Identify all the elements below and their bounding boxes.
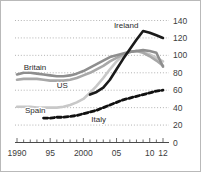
x-tick-label: 10 [145, 148, 155, 158]
chart-card: 020406080100120140 1990952000051012 Irel… [0, 0, 201, 172]
x-axis-tick-labels: 1990952000051012 [8, 148, 168, 158]
y-tick-label: 40 [173, 103, 183, 113]
series-label-britain: Britain [24, 63, 47, 72]
line-chart: 020406080100120140 1990952000051012 Irel… [1, 1, 201, 172]
series-label-ireland: Ireland [114, 21, 138, 30]
x-tick-label: 05 [112, 148, 122, 158]
x-tick-label: 1990 [8, 148, 27, 158]
y-tick-label: 60 [173, 85, 183, 95]
series-label-spain: Spain [25, 106, 45, 115]
x-tick-label: 95 [45, 148, 55, 158]
series-label-italy: Italy [91, 115, 106, 124]
x-tick-label: 12 [158, 148, 168, 158]
y-tick-label: 0 [173, 138, 178, 148]
y-axis-tick-labels: 020406080100120140 [173, 16, 187, 148]
y-tick-label: 100 [173, 50, 187, 60]
y-tick-label: 120 [173, 33, 187, 43]
x-axis [15, 138, 169, 143]
y-tick-label: 20 [173, 120, 183, 130]
x-tick-label: 2000 [74, 148, 93, 158]
series-label-us: US [57, 81, 68, 90]
y-tick-label: 80 [173, 68, 183, 78]
y-tick-label: 140 [173, 16, 187, 26]
